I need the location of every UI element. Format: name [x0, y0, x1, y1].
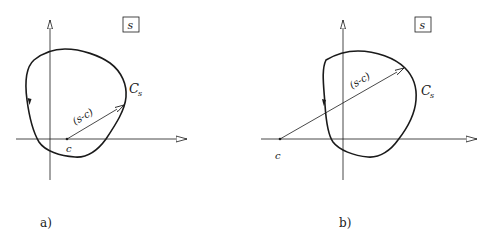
- contour-curve: [323, 51, 416, 157]
- curve-label: C s: [129, 81, 142, 98]
- panel-a: (s-c) c C s s a): [16, 17, 187, 230]
- curve-label-sub: s: [430, 91, 434, 100]
- panel-caption-b: b): [339, 216, 351, 230]
- point-c-label: c: [275, 150, 281, 161]
- vector-label: (s-c): [71, 106, 96, 127]
- point-c: [66, 138, 69, 141]
- s-plane-label: s: [420, 19, 426, 32]
- vector-label: (s-c): [348, 70, 373, 91]
- panel-b: (s-c) c C s s b): [261, 17, 477, 230]
- panel-caption-a: a): [40, 216, 52, 230]
- curve-label-sub: s: [138, 89, 142, 98]
- curve-label: C s: [421, 83, 434, 100]
- vector-s-minus-c: [280, 68, 404, 139]
- diagram-canvas: (s-c) c C s s a) (s-c) c C s s: [0, 0, 494, 244]
- contour-curve: [26, 49, 126, 157]
- point-c: [279, 138, 282, 141]
- s-plane-label: s: [128, 19, 134, 32]
- point-c-label: c: [66, 143, 72, 154]
